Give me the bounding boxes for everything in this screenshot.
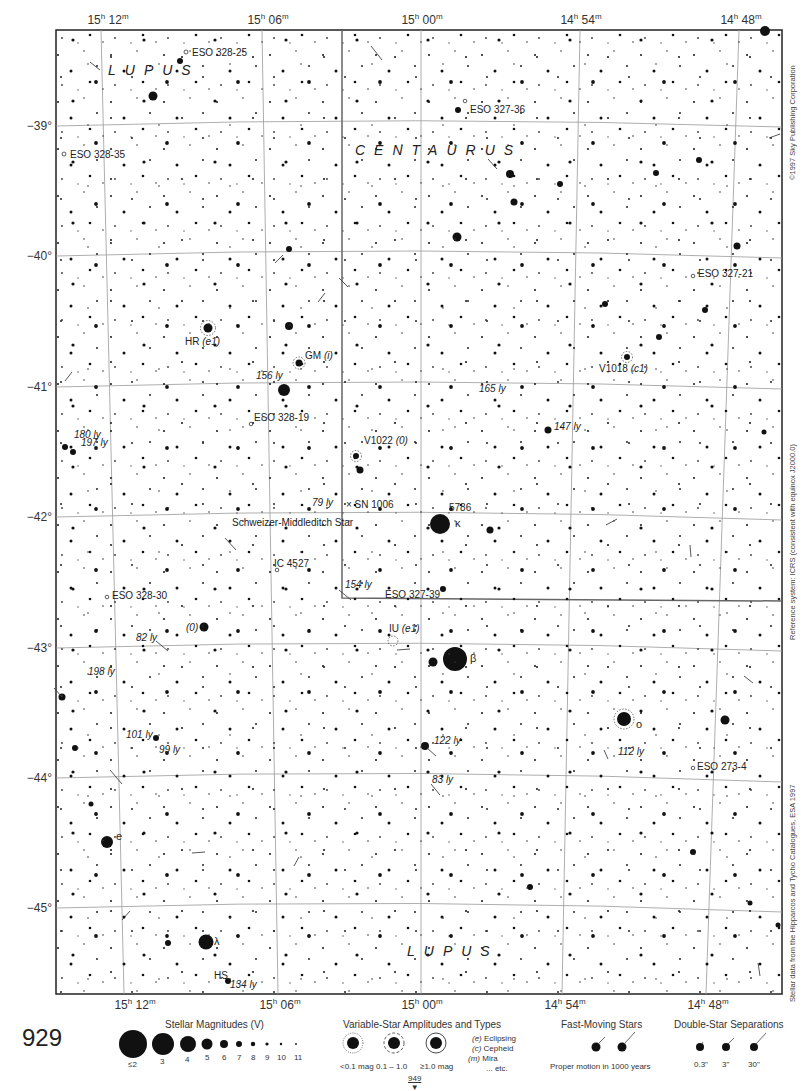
object-label[interactable]: HS bbox=[214, 971, 228, 981]
ra-label: 15h 06m bbox=[247, 12, 288, 27]
magnitude-label: ≤2 bbox=[128, 1060, 137, 1069]
distance-label: 112 ly bbox=[618, 747, 644, 757]
object-label[interactable]: Schweizer-Middleditch Star bbox=[232, 518, 353, 528]
distance-label: 122 ly bbox=[434, 736, 461, 746]
dec-label: −44° bbox=[12, 771, 52, 785]
magnitude-label: 8 bbox=[251, 1053, 255, 1062]
star-chart bbox=[0, 0, 805, 1091]
distance-label: 79 ly bbox=[312, 498, 333, 508]
distance-label: 198 ly bbox=[88, 667, 115, 677]
ra-label: 14h 54m bbox=[544, 997, 585, 1012]
ra-label: 14h 48m bbox=[687, 997, 728, 1012]
ra-label: 15h 12m bbox=[114, 997, 155, 1012]
faint-star-field-2 bbox=[57, 31, 781, 993]
distance-label: 134 ly bbox=[230, 980, 257, 990]
ra-label: 15h 06m bbox=[259, 997, 300, 1012]
distance-label: 147 ly bbox=[554, 422, 581, 432]
magnitude-label: 6 bbox=[222, 1053, 226, 1062]
magnitude-label: 11 bbox=[294, 1053, 302, 1062]
object-label[interactable]: 5786 bbox=[449, 503, 471, 513]
distance-label: 101 ly bbox=[126, 730, 153, 740]
constellation-name: LUPUS bbox=[108, 62, 200, 78]
variable-amplitude-label: ≥1.0 mag bbox=[420, 1062, 453, 1071]
object-label[interactable]: ESO 328-19 bbox=[254, 413, 309, 423]
double-star-separation-icons bbox=[690, 1030, 780, 1056]
object-label[interactable]: ESO 328-25 bbox=[192, 48, 247, 58]
data-source-credit: Stellar data from the Hipparcos and Tych… bbox=[788, 785, 797, 1003]
magnitude-label: 3 bbox=[160, 1057, 164, 1066]
constellation-name: CENTAURUS bbox=[355, 142, 522, 158]
proper-motion-caption: Proper motion in 1000 years bbox=[550, 1062, 651, 1071]
object-label[interactable]: HR (e1) bbox=[185, 337, 220, 347]
next-page-link[interactable]: 949▼ bbox=[408, 1074, 421, 1091]
magnitude-scale bbox=[115, 1028, 305, 1073]
double-star-label: 3" bbox=[722, 1060, 729, 1069]
greek-label: κ bbox=[455, 518, 461, 529]
magnitude-label: 7 bbox=[237, 1053, 241, 1062]
distance-label: 156 ly bbox=[256, 371, 283, 381]
distance-label: 154 ly bbox=[345, 580, 372, 590]
constellation-name: LUPUS bbox=[407, 943, 499, 959]
distance-label: 99 ly bbox=[159, 745, 180, 755]
dec-label: −40° bbox=[12, 249, 52, 263]
object-label[interactable]: ESO 327-36 bbox=[470, 105, 525, 115]
object-label[interactable]: IC 4527 bbox=[274, 559, 309, 569]
ra-label: 15h 00m bbox=[401, 12, 442, 27]
greek-label: e bbox=[116, 831, 122, 842]
distance-label: 165 ly bbox=[479, 384, 506, 394]
greek-label: β bbox=[470, 653, 476, 664]
page-number: 929 bbox=[22, 1024, 62, 1052]
dec-label: −39° bbox=[12, 119, 52, 133]
copyright-credit: ©1997 Sky Publishing Corporation bbox=[788, 65, 797, 180]
proper-motion-icon bbox=[580, 1030, 640, 1056]
object-label[interactable]: V1018 (c1) bbox=[599, 364, 648, 374]
chevron-down-icon: ▼ bbox=[411, 1083, 419, 1091]
double-star-label: 30" bbox=[748, 1060, 760, 1069]
magnitude-label: 5 bbox=[205, 1053, 209, 1062]
dec-label: −41° bbox=[12, 380, 52, 394]
legend-variables-title: Variable-Star Amplitudes and Types bbox=[343, 1019, 501, 1030]
variable-amplitude-scale bbox=[338, 1030, 458, 1058]
object-label[interactable]: GM (i) bbox=[305, 351, 333, 361]
variable-amplitude-label: 0.1 – 1.0 bbox=[376, 1062, 407, 1071]
ra-label: 14h 48m bbox=[720, 12, 761, 27]
double-star-label: 0.3" bbox=[694, 1060, 708, 1069]
object-label[interactable]: IU (e1) bbox=[389, 624, 420, 634]
variable-type: (m) Mira bbox=[468, 1054, 498, 1063]
greek-label: λ bbox=[214, 936, 220, 947]
object-label[interactable]: ESO 273-4 bbox=[697, 762, 746, 772]
ra-label: 14h 54m bbox=[560, 12, 601, 27]
distance-label: 197 ly bbox=[81, 438, 108, 448]
legend-fast-moving-title: Fast-Moving Stars bbox=[561, 1019, 642, 1030]
object-label[interactable]: ESO 328-30 bbox=[112, 591, 167, 601]
dec-label: −42° bbox=[12, 510, 52, 524]
dec-label: −45° bbox=[12, 901, 52, 915]
variable-type: (c) Cepheid bbox=[472, 1044, 513, 1053]
object-label[interactable]: (0) bbox=[186, 623, 198, 633]
magnitude-label: 4 bbox=[185, 1055, 189, 1064]
object-label[interactable]: ESO 327-21 bbox=[698, 269, 753, 279]
object-label[interactable]: ESO 327-39 bbox=[385, 590, 440, 600]
distance-label: 83 ly bbox=[432, 775, 453, 785]
reference-system-credit: Reference system: ICRS (consistent with … bbox=[788, 444, 797, 640]
legend-doubles-title: Double-Star Separations bbox=[674, 1019, 784, 1030]
magnitude-label: 9 bbox=[265, 1053, 269, 1062]
variable-type: (e) Eclipsing bbox=[472, 1034, 516, 1043]
magnitude-label: 10 bbox=[277, 1053, 286, 1062]
object-label[interactable]: ESO 328-35 bbox=[70, 150, 125, 160]
greek-label: o bbox=[636, 719, 642, 730]
ra-label: 15h 00m bbox=[401, 997, 442, 1012]
distance-label: 82 ly bbox=[136, 633, 157, 643]
variable-type: ... etc. bbox=[486, 1064, 508, 1073]
variable-amplitude-label: <0.1 mag bbox=[340, 1062, 374, 1071]
ra-label: 15h 12m bbox=[87, 12, 128, 27]
object-label[interactable]: × SN 1006 bbox=[346, 500, 394, 510]
dec-label: −43° bbox=[12, 641, 52, 655]
object-label[interactable]: V1022 (0) bbox=[364, 436, 408, 446]
